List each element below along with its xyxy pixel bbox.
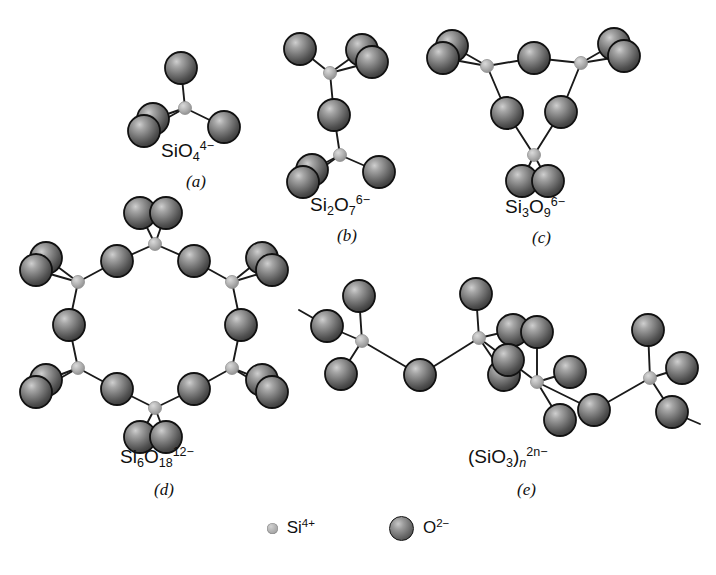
oxygen-atom bbox=[165, 52, 197, 84]
silicon-atom bbox=[528, 149, 541, 162]
formula-label-c: Si3O96− bbox=[505, 196, 565, 218]
silicon-atom bbox=[575, 57, 588, 70]
oxygen-atom bbox=[256, 254, 288, 286]
silicon-atom bbox=[226, 362, 239, 375]
oxygen-atom bbox=[325, 358, 357, 390]
oxygen-atom bbox=[532, 165, 564, 197]
silicon-atom bbox=[149, 238, 162, 251]
oxygen-atom bbox=[343, 280, 375, 312]
formula-a-text: SiO44− bbox=[161, 140, 214, 161]
oxygen-atom bbox=[150, 197, 182, 229]
oxygen-atom bbox=[101, 373, 133, 405]
oxygen-atom bbox=[225, 309, 257, 341]
legend-label-oxygen: O2− bbox=[423, 518, 449, 538]
oxygen-atom bbox=[284, 33, 316, 65]
molecule-diagram-canvas bbox=[0, 0, 716, 575]
silicon-atom bbox=[481, 60, 494, 73]
legend: Si4+ O2− bbox=[0, 508, 716, 548]
panel-letter-a: (a) bbox=[186, 172, 206, 192]
oxygen-atom bbox=[656, 396, 688, 428]
formula-b-text: Si2O76− bbox=[310, 194, 370, 215]
legend-label-silicon: Si4+ bbox=[287, 518, 315, 538]
oxygen-atom bbox=[178, 245, 210, 277]
formula-d-text: Si6O1812− bbox=[120, 446, 194, 467]
oxygen-atom bbox=[632, 314, 664, 346]
oxygen-atom bbox=[545, 96, 577, 128]
panel-letter-b: (b) bbox=[337, 226, 357, 246]
silicon-atom bbox=[531, 376, 544, 389]
bond-layer bbox=[36, 44, 700, 437]
oxygen-atom bbox=[492, 344, 524, 376]
oxygen-atom bbox=[427, 42, 459, 74]
oxygen-atom bbox=[128, 115, 160, 147]
oxygen-sphere-icon bbox=[389, 516, 414, 541]
oxygen-atom bbox=[356, 46, 388, 78]
formula-label-b: Si2O76− bbox=[310, 194, 370, 216]
oxygen-atom bbox=[20, 254, 52, 286]
silicon-atom bbox=[324, 67, 337, 80]
oxygen-atom bbox=[311, 310, 343, 342]
panel-letter-d: (d) bbox=[154, 480, 174, 500]
oxygen-atom bbox=[404, 359, 436, 391]
silicon-atom bbox=[226, 276, 239, 289]
legend-item-oxygen: O2− bbox=[389, 516, 449, 541]
silicon-atom bbox=[356, 335, 369, 348]
oxygen-atom bbox=[578, 394, 610, 426]
oxygen-atom bbox=[318, 99, 350, 131]
oxygen-atom bbox=[53, 309, 85, 341]
oxygen-atom bbox=[544, 404, 576, 436]
legend-item-silicon: Si4+ bbox=[267, 518, 315, 538]
formula-e-text: (SiO3)n2n− bbox=[468, 446, 548, 467]
oxygen-atom bbox=[101, 245, 133, 277]
silicon-atom bbox=[72, 276, 85, 289]
oxygen-atom bbox=[363, 156, 395, 188]
oxygen-atom bbox=[256, 376, 288, 408]
oxygen-atom bbox=[178, 373, 210, 405]
atom-layer bbox=[20, 28, 698, 453]
silicon-atom bbox=[334, 149, 347, 162]
silicon-atom bbox=[179, 102, 192, 115]
oxygen-atom bbox=[20, 376, 52, 408]
panel-letter-e: (e) bbox=[517, 480, 536, 500]
oxygen-atom bbox=[666, 352, 698, 384]
oxygen-atom bbox=[460, 278, 492, 310]
silicate-structures-figure: SiO44− (a) Si2O76− (b) Si3O96− (c) Si6O1… bbox=[0, 0, 716, 575]
panel-letter-c: (c) bbox=[532, 228, 551, 248]
oxygen-atom bbox=[491, 97, 523, 129]
oxygen-atom bbox=[521, 316, 553, 348]
oxygen-atom bbox=[518, 42, 550, 74]
oxygen-atom bbox=[608, 40, 640, 72]
silicon-atom bbox=[644, 372, 657, 385]
silicon-atom bbox=[149, 402, 162, 415]
silicon-atom bbox=[473, 332, 486, 345]
oxygen-atom bbox=[554, 356, 586, 388]
silicon-atom bbox=[72, 362, 85, 375]
oxygen-atom bbox=[208, 111, 240, 143]
formula-label-d: Si6O1812− bbox=[120, 446, 194, 468]
formula-label-e: (SiO3)n2n− bbox=[468, 446, 548, 468]
formula-label-a: SiO44− bbox=[161, 140, 214, 162]
formula-c-text: Si3O96− bbox=[505, 196, 565, 217]
silicon-sphere-icon bbox=[267, 523, 278, 534]
